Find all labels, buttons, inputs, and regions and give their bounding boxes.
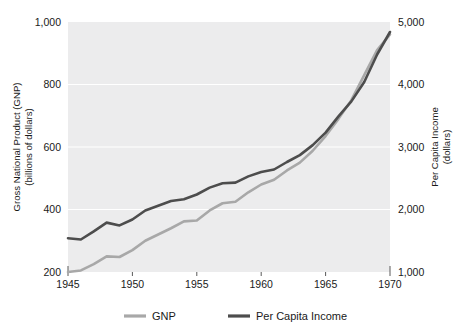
- x-tick-label-1955: 1955: [185, 278, 209, 290]
- y-left-tick-label-600: 600: [43, 141, 61, 153]
- gnp-per-capita-income-line-chart: 194519501955196019651970 2004006008001,0…: [0, 0, 467, 334]
- y-left-tick-label-400: 400: [43, 203, 61, 215]
- y-right-tick-label-3000: 3,000: [398, 141, 424, 153]
- legend-label-per-capita-income: Per Capita Income: [256, 310, 347, 322]
- y-left-tick-label-800: 800: [43, 78, 61, 90]
- y-left-axis-title-line1: Gross National Product (GNP): [11, 82, 22, 211]
- y-right-axis-title-line2: (dollars): [441, 130, 452, 165]
- y-right-tick-label-1000: 1,000: [398, 266, 424, 278]
- y-right-tick-label-5000: 5,000: [398, 16, 424, 28]
- y-left-axis-title-line2: (billions of dollars): [23, 108, 34, 185]
- x-tick-label-1970: 1970: [378, 278, 402, 290]
- chart-figure: 194519501955196019651970 2004006008001,0…: [0, 0, 467, 334]
- y-right-axis-title-line1: Per Capita Income: [429, 107, 440, 186]
- legend-label-gnp: GNP: [152, 310, 176, 322]
- x-tick-label-1965: 1965: [314, 278, 338, 290]
- y-left-tick-label-1000: 1,000: [35, 16, 61, 28]
- x-tick-label-1960: 1960: [250, 278, 274, 290]
- y-right-tick-label-2000: 2,000: [398, 203, 424, 215]
- y-right-tick-label-4000: 4,000: [398, 78, 424, 90]
- x-tick-label-1950: 1950: [121, 278, 145, 290]
- y-left-tick-label-200: 200: [43, 266, 61, 278]
- x-tick-label-1945: 1945: [56, 278, 80, 290]
